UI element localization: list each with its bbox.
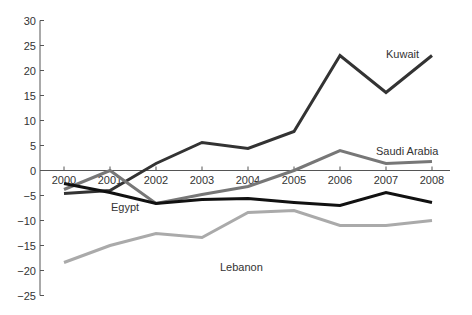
x-tick-label: 2003: [190, 174, 214, 186]
y-axis: 302520151050−5−10−15−20−25: [17, 15, 44, 302]
y-tick-label: −10: [17, 215, 36, 227]
y-tick-label: −15: [17, 240, 36, 252]
y-tick-label: −20: [17, 265, 36, 277]
y-tick-label: 0: [30, 165, 36, 177]
x-tick-label: 2008: [420, 174, 444, 186]
y-tick-label: 25: [24, 40, 36, 52]
x-tick-label: 2005: [282, 174, 306, 186]
y-tick-label: 5: [30, 140, 36, 152]
x-axis: 200020012002200320042005200620072008: [40, 167, 450, 186]
y-tick-label: 30: [24, 15, 36, 27]
line-chart: 302520151050−5−10−15−20−25 2000200120022…: [0, 0, 472, 315]
y-tick-label: 20: [24, 65, 36, 77]
series-lines: [64, 56, 432, 263]
x-tick-label: 2007: [374, 174, 398, 186]
y-tick-label: −5: [23, 190, 36, 202]
series-label-egypt: Egypt: [111, 201, 139, 213]
series-label-saudi-arabia: Saudi Arabia: [376, 145, 439, 157]
series-label-lebanon: Lebanon: [220, 261, 263, 273]
series-line-lebanon: [64, 211, 432, 263]
y-tick-label: 10: [24, 115, 36, 127]
series-label-kuwait: Kuwait: [386, 48, 419, 60]
y-tick-label: 15: [24, 90, 36, 102]
y-tick-label: −25: [17, 290, 36, 302]
x-tick-label: 2006: [328, 174, 352, 186]
x-tick-label: 2002: [144, 174, 168, 186]
